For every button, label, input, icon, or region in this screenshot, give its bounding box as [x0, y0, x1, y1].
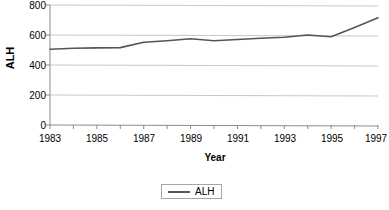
- y-axis-ticks: [46, 5, 50, 125]
- plot-area: [0, 0, 389, 210]
- x-tick-label-1995: 1995: [312, 133, 352, 144]
- x-tick-label-1993: 1993: [265, 133, 305, 144]
- legend-label-alh: ALH: [195, 187, 214, 197]
- gridlines: [50, 5, 378, 96]
- gridline-200: [50, 95, 378, 96]
- legend-line-swatch-icon: [168, 191, 190, 193]
- x-axis-tick-labels: 1983 1985 1987 1989 1991 1993 1995 1997: [0, 133, 389, 149]
- x-tick-label-1985: 1985: [77, 133, 117, 144]
- line-chart: ALH 800 600 400 200 0 1983 1985 1987 198…: [0, 0, 389, 210]
- x-axis-title: Year: [50, 152, 380, 163]
- x-tick-label-1991: 1991: [218, 133, 258, 144]
- gridline-800: [50, 5, 378, 6]
- series-line-alh: [50, 18, 378, 50]
- chart-legend: ALH: [161, 184, 222, 199]
- x-tick-label-1989: 1989: [171, 133, 211, 144]
- x-tick-label-1997: 1997: [356, 133, 389, 144]
- x-tick-label-1983: 1983: [30, 133, 70, 144]
- gridline-400: [50, 65, 378, 66]
- x-tick-label-1987: 1987: [124, 133, 164, 144]
